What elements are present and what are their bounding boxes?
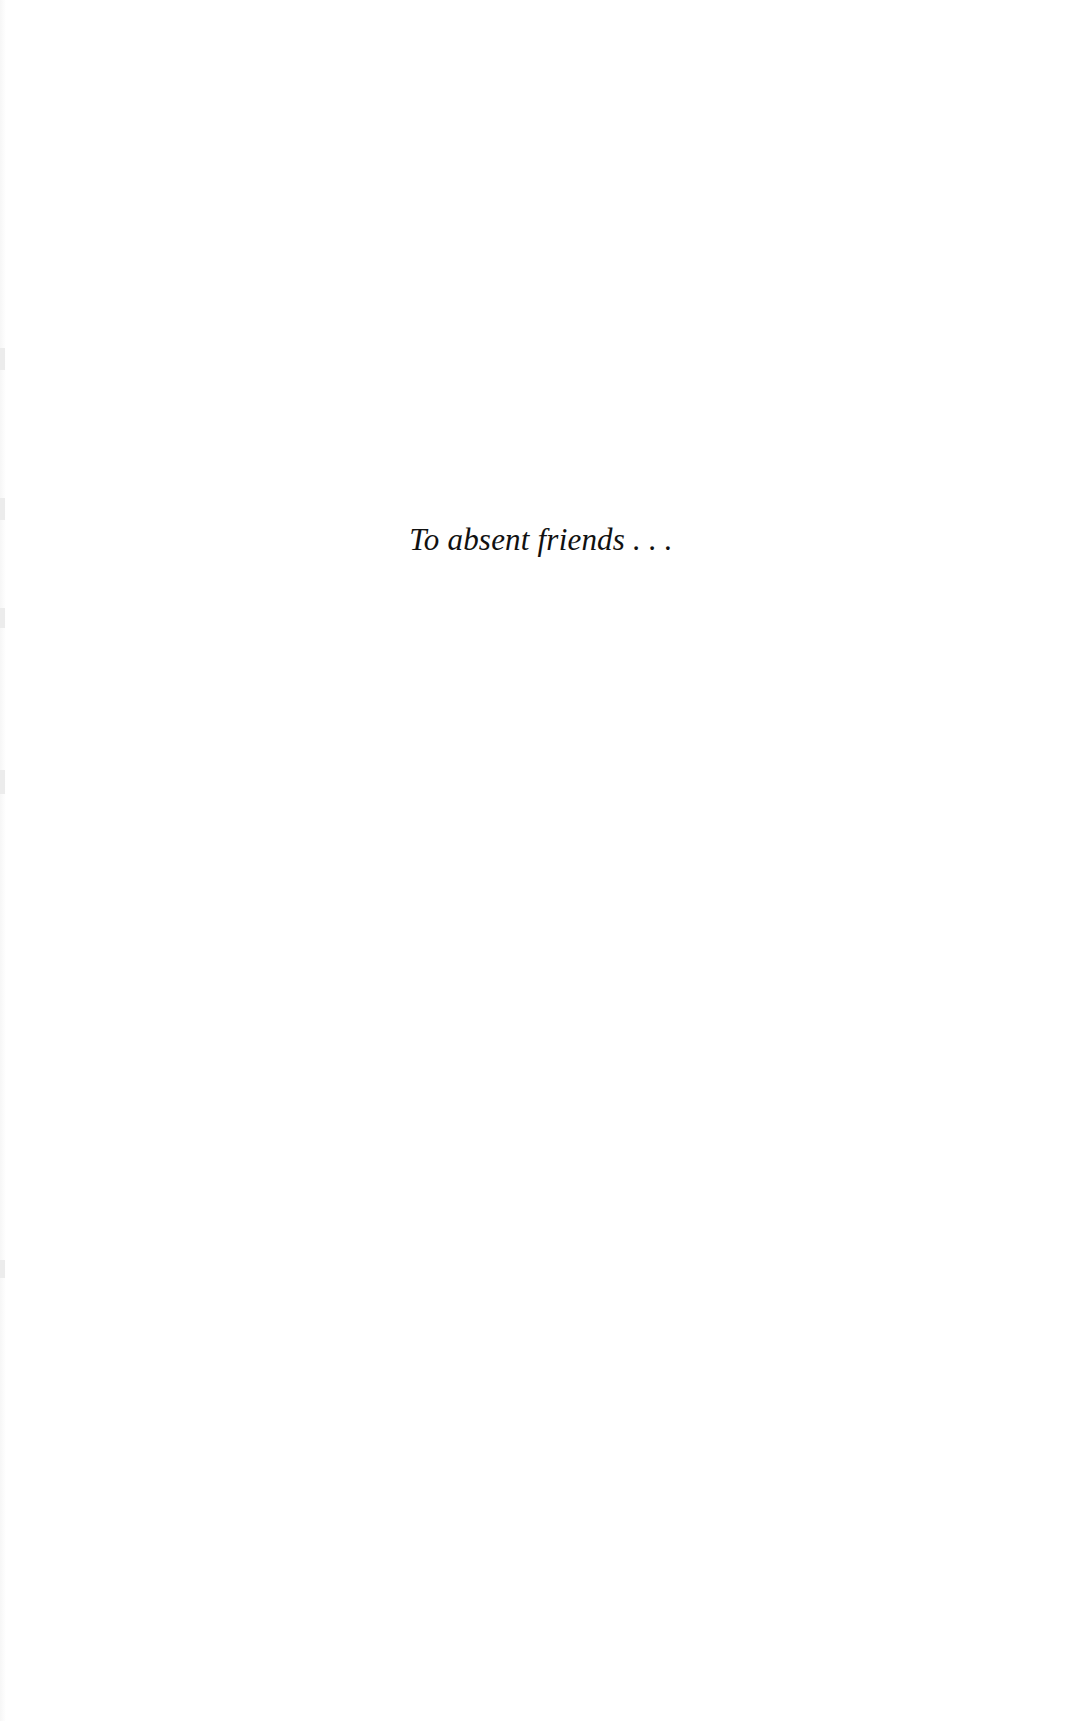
scan-artifact bbox=[0, 498, 5, 520]
dedication-text: To absent friends . . . bbox=[409, 522, 673, 558]
scan-artifact bbox=[0, 1260, 5, 1278]
dedication-page: To absent friends . . . bbox=[0, 0, 1083, 1721]
scan-artifact bbox=[0, 608, 5, 628]
scan-artifact bbox=[0, 770, 5, 794]
dedication: To absent friends . . . bbox=[0, 522, 1083, 558]
scan-artifact bbox=[0, 348, 5, 370]
scan-edge-shadow bbox=[0, 0, 6, 1721]
